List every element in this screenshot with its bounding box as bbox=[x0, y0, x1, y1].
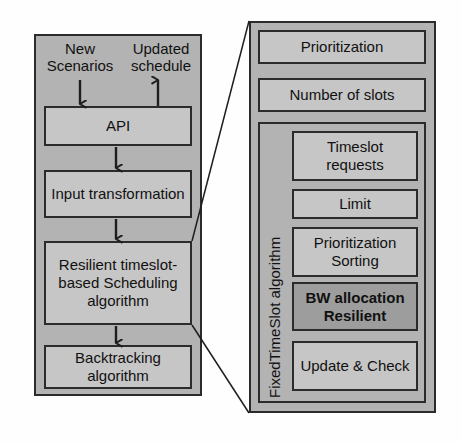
node-api-label: API bbox=[49, 117, 187, 135]
diagram-canvas: New Scenarios Updated schedule API Input… bbox=[0, 0, 461, 444]
node-prioritization[interactable]: Prioritization bbox=[258, 30, 426, 64]
node-update-and-check-label: Update & Check bbox=[297, 357, 413, 375]
node-prioritization-label: Prioritization bbox=[263, 38, 421, 56]
node-backtracking-label: Backtracking algorithm bbox=[49, 349, 187, 384]
node-input-transformation-label: Input transformation bbox=[49, 185, 187, 203]
input-label-new-scenarios: New Scenarios bbox=[44, 40, 116, 75]
node-backtracking[interactable]: Backtracking algorithm bbox=[44, 345, 192, 389]
input-label-updated-schedule: Updated schedule bbox=[122, 40, 200, 75]
node-prioritization-sorting-label: Prioritization Sorting bbox=[297, 234, 413, 269]
node-prioritization-sorting[interactable]: Prioritization Sorting bbox=[292, 227, 418, 277]
node-timeslot-requests-label: Timeslot requests bbox=[297, 138, 413, 173]
node-api[interactable]: API bbox=[44, 106, 192, 146]
node-bw-allocation-resilient-label: BW allocation Resilient bbox=[297, 289, 413, 324]
node-limit-label: Limit bbox=[297, 195, 413, 213]
node-number-of-slots-label: Number of slots bbox=[263, 86, 421, 104]
node-bw-allocation-resilient[interactable]: BW allocation Resilient bbox=[292, 282, 418, 331]
node-resilient-scheduling[interactable]: Resilient timeslot- based Scheduling alg… bbox=[44, 241, 192, 325]
node-resilient-scheduling-label: Resilient timeslot- based Scheduling alg… bbox=[49, 256, 187, 309]
node-update-and-check[interactable]: Update & Check bbox=[292, 341, 418, 391]
node-limit[interactable]: Limit bbox=[292, 189, 418, 219]
node-number-of-slots[interactable]: Number of slots bbox=[258, 78, 426, 112]
fixedtimeslot-group-label: FixedTimeSlot algorithm bbox=[266, 237, 283, 398]
node-input-transformation[interactable]: Input transformation bbox=[44, 170, 192, 218]
node-timeslot-requests[interactable]: Timeslot requests bbox=[292, 131, 418, 181]
